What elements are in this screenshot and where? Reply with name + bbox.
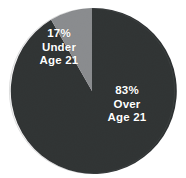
pie-label-over-age-21: 83% Over Age 21 [96,84,158,125]
pie-chart-figure: 17% Under Age 21 83% Over Age 21 [0,0,186,178]
pie-label-under-age-21: 17% Under Age 21 [28,27,90,68]
pie-label-over-age-21-line3: Age 21 [96,111,158,125]
pie-label-under-age-21-line2: Under [28,41,90,55]
pie-label-over-age-21-percent: 83% [96,84,158,98]
pie-label-over-age-21-line2: Over [96,98,158,112]
pie-label-under-age-21-percent: 17% [28,27,90,41]
pie-label-under-age-21-line3: Age 21 [28,54,90,68]
